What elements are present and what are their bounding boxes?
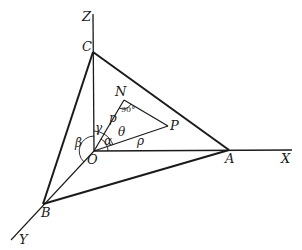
label-rho: ρ [136, 134, 144, 148]
label-x: X [280, 151, 291, 166]
label-segment-p: p [109, 111, 117, 125]
edge-bc [43, 52, 93, 204]
label-gamma: γ [95, 121, 103, 135]
label-beta: β [74, 136, 82, 150]
edge-ca [93, 52, 229, 150]
label-p: P [169, 118, 179, 133]
label-c: C [82, 39, 92, 54]
diagram-canvas: Z C N 90° p P γ θ α ρ β O A X B Y [0, 0, 302, 250]
label-o: O [87, 152, 98, 167]
label-right-angle: 90° [121, 105, 135, 114]
edge-ab [43, 150, 229, 204]
label-z: Z [81, 9, 92, 24]
label-n: N [114, 84, 127, 99]
y-axis [11, 151, 94, 240]
z-axis [93, 14, 94, 151]
label-a: A [224, 151, 234, 166]
geometry-figure: Z C N 90° p P γ θ α ρ β O A X B Y [0, 0, 302, 250]
label-b: B [40, 205, 51, 220]
x-axis [94, 150, 292, 151]
label-y: Y [19, 232, 29, 247]
label-alpha: α [104, 134, 112, 148]
label-theta: θ [118, 125, 126, 139]
